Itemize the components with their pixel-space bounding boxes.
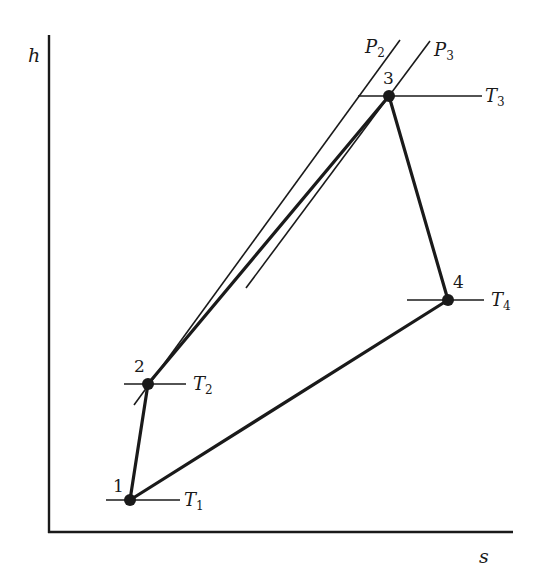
point-label-3: 3 xyxy=(383,68,394,88)
point-label-4: 4 xyxy=(453,272,464,292)
point-label-1: 1 xyxy=(113,476,124,496)
process-2-3 xyxy=(148,96,389,384)
isobar-p3-label: P3 xyxy=(433,39,454,63)
cycle-path xyxy=(130,96,448,500)
x-axis-label: s xyxy=(479,545,489,567)
isobar-p2-line xyxy=(134,40,400,405)
y-axis-label: h xyxy=(28,44,40,66)
process-3-4 xyxy=(389,96,448,300)
point-label-2: 2 xyxy=(134,356,145,376)
isotherm-t1-label: T1 xyxy=(184,489,204,513)
isotherm-t4-label: T4 xyxy=(491,289,511,313)
state-point-3 xyxy=(383,90,395,102)
state-point-2 xyxy=(142,378,154,390)
h-s-diagram: h s 1 2 3 4 T1 T2 T3 T4 P2 P3 xyxy=(0,0,544,576)
isotherm-t3-label: T3 xyxy=(485,85,505,109)
state-point-1 xyxy=(124,494,136,506)
isobar-p2-label: P2 xyxy=(364,36,385,60)
state-point-4 xyxy=(442,294,454,306)
process-4-1 xyxy=(130,300,448,500)
isotherm-t2-label: T2 xyxy=(193,373,213,397)
process-1-2 xyxy=(130,384,148,500)
isobar-p3-line xyxy=(246,41,430,288)
